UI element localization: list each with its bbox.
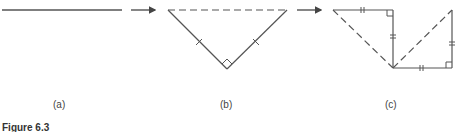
panel-a-label: (a) [53,99,65,110]
panel-c-label: (c) [385,99,397,110]
panel-b-triangle [168,10,287,69]
panel-b-label: (b) [220,99,232,110]
panel-c-triangles [333,7,455,71]
figure-diagram [0,0,456,132]
figure-caption: Figure 6.3 [2,122,49,132]
